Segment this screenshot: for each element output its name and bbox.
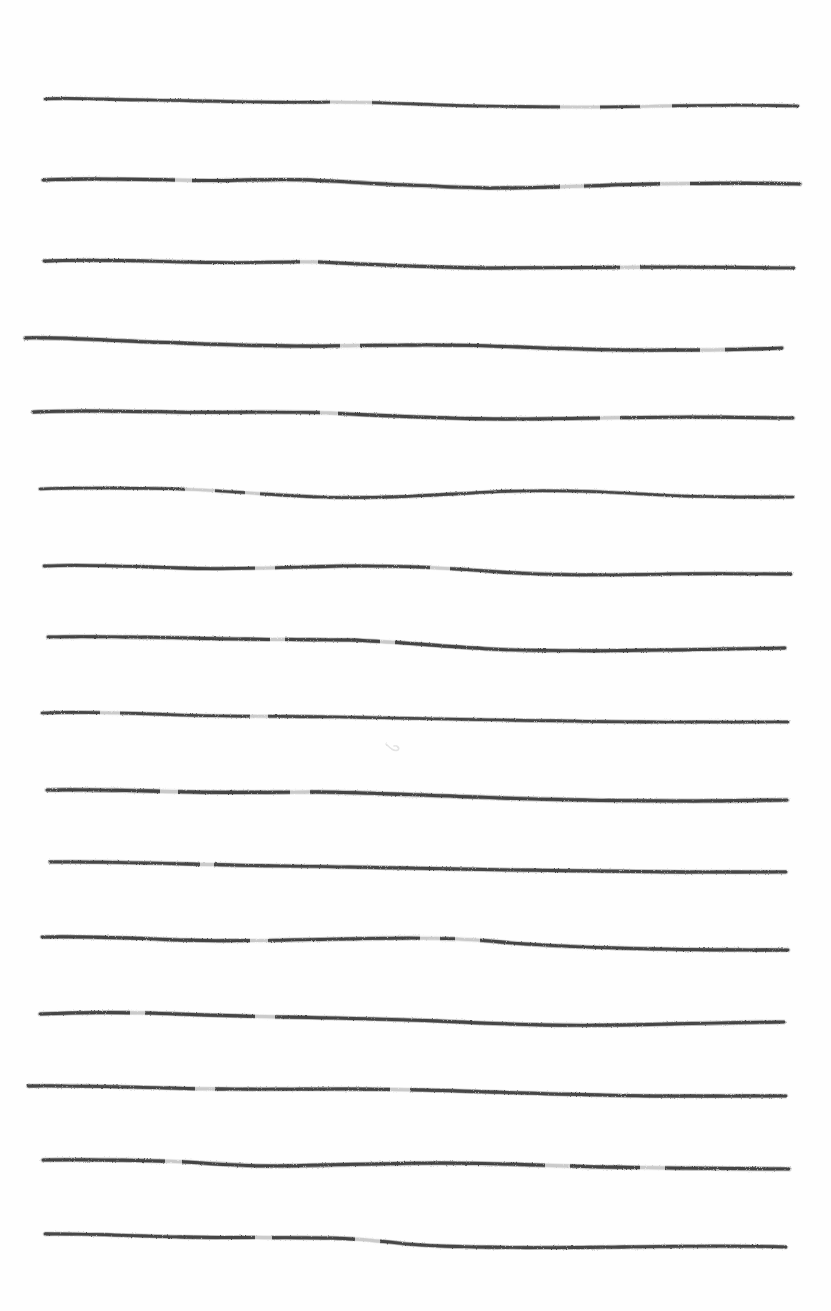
ruled-line-gap: [340, 332, 360, 355]
ruled-line: [47, 784, 787, 806]
lines-group: [25, 93, 800, 1253]
ruled-line-grain: [44, 565, 791, 575]
ruled-line: [42, 707, 788, 728]
ruled-line: [50, 856, 786, 878]
ruled-line: [33, 406, 793, 424]
ruled-line-gap: [320, 406, 338, 424]
ruled-line-gap: [560, 93, 600, 112]
ruled-line: [25, 332, 782, 355]
ruled-line-gap: [255, 1228, 272, 1253]
ruled-line-gap: [270, 631, 285, 654]
ruled-line-gap: [195, 1080, 215, 1102]
ruled-line-gap: [430, 560, 450, 580]
ruled-line: [44, 560, 791, 580]
ruled-line: [43, 174, 800, 190]
ruled-line: [40, 1008, 784, 1028]
ruled-line-gap: [455, 931, 480, 956]
faint-pencil-smudge: [386, 744, 399, 751]
ruled-line-gap: [620, 255, 640, 274]
ruled-line-gap: [290, 784, 310, 806]
marks-group: [386, 744, 399, 751]
ruled-line-gap: [600, 406, 620, 424]
ruled-lines-drawing: [0, 0, 831, 1311]
ruled-line-gap: [355, 1228, 380, 1253]
ruled-line-gap: [390, 1080, 410, 1102]
ruled-line-gap: [545, 1154, 570, 1175]
ruled-line-gap: [640, 1154, 665, 1175]
ruled-line-gap: [330, 93, 372, 112]
ruled-line-gap: [160, 784, 178, 806]
ruled-line-gap: [250, 707, 268, 728]
ruled-line-gap: [700, 332, 725, 355]
ruled-line-grain: [48, 637, 785, 651]
ruled-line-gap: [185, 483, 215, 503]
ruled-line-gap: [100, 707, 120, 728]
ruled-line-grain: [45, 1234, 786, 1248]
ruled-line-gap: [165, 1154, 182, 1175]
ruled-line: [43, 1154, 789, 1175]
ruled-line-grain: [47, 790, 787, 801]
ruled-line-gap: [250, 931, 268, 956]
ruled-line-gap: [660, 174, 690, 190]
ruled-line: [45, 1228, 786, 1253]
ruled-line-gap: [245, 483, 260, 503]
ruled-line-gap: [130, 1008, 145, 1028]
ruled-line: [45, 93, 798, 112]
ruled-line-gap: [255, 1008, 275, 1028]
ruled-line-gap: [175, 174, 192, 190]
paper-sheet: [0, 0, 831, 1311]
ruled-line-grain: [42, 937, 788, 950]
ruled-line-gap: [200, 856, 214, 878]
ruled-line-gap: [300, 255, 318, 274]
ruled-line: [44, 255, 794, 274]
ruled-line-grain: [40, 488, 793, 498]
ruled-line-grain: [45, 98, 798, 107]
ruled-line: [40, 483, 793, 503]
ruled-line: [42, 931, 788, 956]
ruled-line-grain: [40, 1012, 784, 1025]
ruled-line: [48, 631, 785, 654]
ruled-line: [28, 1080, 786, 1102]
ruled-line-gap: [640, 93, 672, 112]
ruled-line-gap: [560, 174, 584, 190]
ruled-line-gap: [420, 931, 440, 956]
ruled-line-gap: [255, 560, 275, 580]
ruled-line-gap: [380, 631, 395, 654]
